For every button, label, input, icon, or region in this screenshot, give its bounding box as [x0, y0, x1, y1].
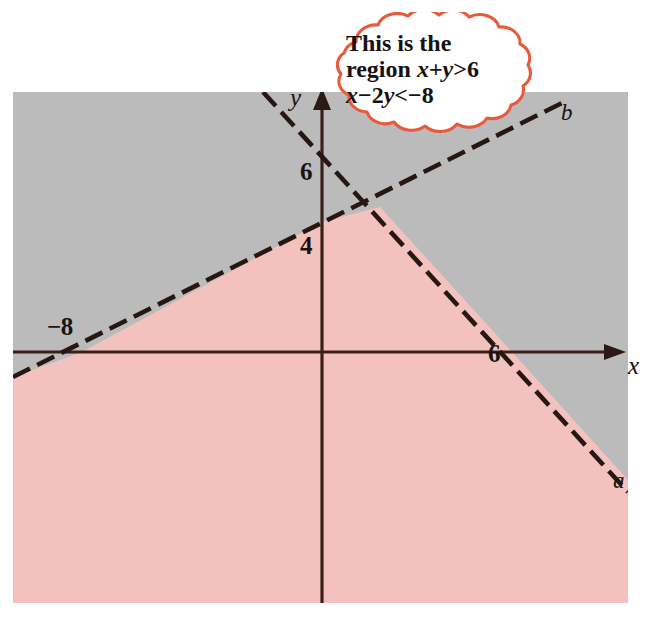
callout-line-2-word: region [346, 56, 417, 82]
callout-line-3: x−2y<−8 [346, 82, 536, 108]
callout-line-2-gt6: >6 [453, 56, 479, 82]
callout-line-3-ltminus8: <−8 [394, 82, 433, 108]
callout-cloud: This is the region x+y>6 x−2y<−8 [322, 12, 544, 142]
callout-line-3-minus2: −2 [358, 82, 384, 108]
callout-line-3-x: x [346, 82, 358, 108]
callout-line-3-y: y [384, 82, 395, 108]
callout-line-2-x: x [417, 56, 429, 82]
plot-area [13, 88, 628, 603]
callout-line-1: This is the [346, 30, 536, 56]
callout-line-2-plus: + [429, 56, 443, 82]
callout-line-2: region x+y>6 [346, 56, 536, 82]
callout-line-2-y: y [443, 56, 454, 82]
callout-text: This is the region x+y>6 x−2y<−8 [346, 30, 536, 108]
